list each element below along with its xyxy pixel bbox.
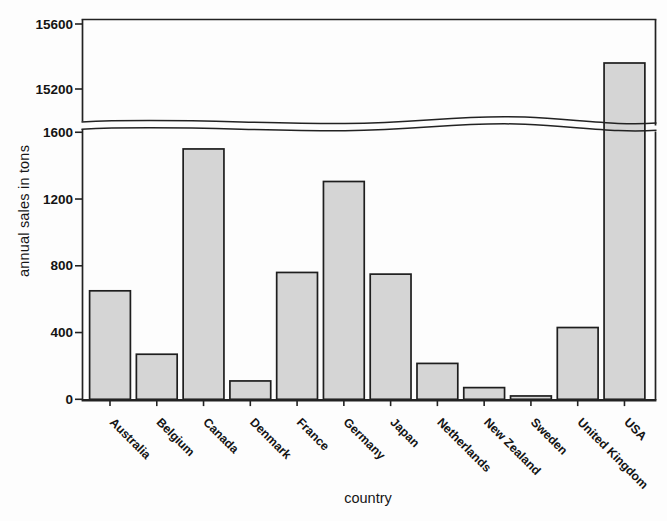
y-axis-title: annual sales in tons <box>16 145 32 277</box>
bar-sweden <box>511 396 552 399</box>
bar-denmark <box>230 381 271 399</box>
axis-break-lower-wave <box>82 124 657 131</box>
x-axis-title: country <box>344 490 392 506</box>
y-tick-label: 800 <box>50 258 73 273</box>
bar-france <box>277 272 318 399</box>
x-tick-label: Australia <box>107 415 154 462</box>
bar-japan <box>370 274 411 399</box>
bar-germany <box>323 181 364 399</box>
axis-break-upper-wave <box>82 117 657 124</box>
x-tick-label: Belgium <box>154 415 198 459</box>
x-tick-label: USA <box>621 415 649 443</box>
y-tick-label: 400 <box>50 325 73 340</box>
x-tick-label: Japan <box>387 415 422 450</box>
x-tick-label: Denmark <box>247 415 294 462</box>
y-tick-label: 1200 <box>43 192 73 207</box>
bar-chart-figure: AustraliaBelgiumCanadaDenmarkFranceGerma… <box>0 0 667 521</box>
y-tick-label: 0 <box>65 392 73 407</box>
bar-netherlands <box>417 363 458 399</box>
bar-australia <box>90 291 131 399</box>
x-tick-label: France <box>294 415 332 453</box>
y-tick-label: 15600 <box>35 17 73 32</box>
plot-area: AustraliaBelgiumCanadaDenmarkFranceGerma… <box>0 0 667 521</box>
x-tick-label: Germany <box>341 415 388 462</box>
bar-united-kingdom <box>557 328 598 400</box>
bar-belgium <box>136 354 177 399</box>
y-tick-label: 15200 <box>35 82 73 97</box>
y-tick-label: 1600 <box>43 125 73 140</box>
bar-canada <box>183 149 224 399</box>
bar-new-zealand <box>464 388 505 400</box>
x-tick-label: Sweden <box>528 415 570 457</box>
bar-usa <box>604 63 645 399</box>
x-tick-label: Canada <box>200 415 241 456</box>
